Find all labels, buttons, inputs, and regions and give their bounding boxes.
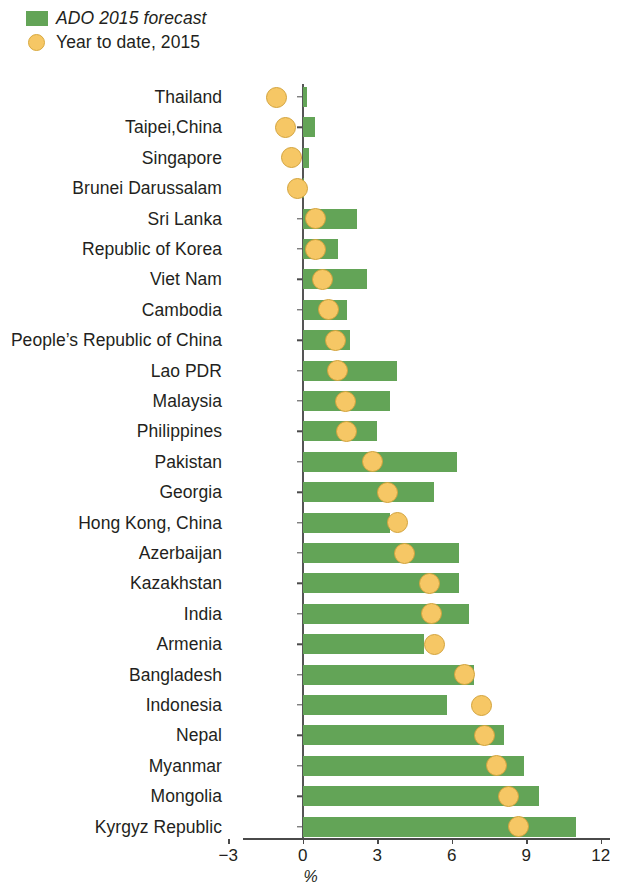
category-label: Sri Lanka [148, 208, 222, 229]
x-axis-tick [377, 839, 378, 844]
chart-row: Bangladesh [0, 660, 621, 690]
y-axis-tick [297, 400, 302, 401]
x-axis-tick-label: 12 [591, 846, 610, 866]
category-label: Armenia [156, 634, 222, 655]
category-label: Malaysia [153, 391, 222, 412]
forecast-bar [303, 148, 309, 168]
y-axis-tick [297, 491, 302, 492]
year-to-date-marker [454, 664, 475, 685]
chart-row: Sri Lanka [0, 204, 621, 234]
forecast-bar [303, 87, 307, 107]
category-label: Republic of Korea [82, 239, 222, 260]
category-label: Myanmar [149, 755, 222, 776]
x-axis-tick-label: 6 [447, 846, 456, 866]
chart-row: Pakistan [0, 447, 621, 477]
forecast-bar [303, 695, 447, 715]
y-axis-tick [297, 613, 302, 614]
category-label: Singapore [142, 147, 222, 168]
year-to-date-marker [471, 695, 492, 716]
x-axis-tick-label: 0 [298, 846, 307, 866]
category-label: Mongolia [151, 786, 222, 807]
forecast-bar [303, 117, 315, 137]
chart-row: Taipei,China [0, 112, 621, 142]
y-axis-tick [297, 127, 302, 128]
chart-row: Myanmar [0, 751, 621, 781]
category-label: India [184, 603, 222, 624]
x-axis-title: % [0, 868, 621, 886]
chart-row: Philippines [0, 416, 621, 446]
category-label: Pakistan [154, 451, 222, 472]
category-label: Nepal [176, 725, 222, 746]
category-label: Kyrgyz Republic [95, 816, 222, 837]
year-to-date-marker [312, 269, 333, 290]
y-axis-tick [297, 431, 302, 432]
x-axis-tick [526, 839, 527, 844]
chart-row: Thailand [0, 82, 621, 112]
y-axis-tick [297, 674, 302, 675]
category-label: Lao PDR [151, 360, 222, 381]
year-to-date-marker [387, 512, 408, 533]
category-label: Cambodia [142, 299, 222, 320]
category-label: Bangladesh [129, 664, 222, 685]
y-axis-tick [297, 643, 302, 644]
category-label: Indonesia [146, 695, 222, 716]
y-axis-tick [297, 461, 302, 462]
chart-row: Republic of Korea [0, 234, 621, 264]
category-label: Kazakhstan [130, 573, 222, 594]
forecast-bar [303, 543, 459, 563]
y-axis-tick [297, 765, 302, 766]
category-label: People’s Republic of China [11, 330, 222, 351]
y-axis-tick [297, 522, 302, 523]
chart-row: Viet Nam [0, 264, 621, 294]
chart-row: Cambodia [0, 295, 621, 325]
chart-row: Armenia [0, 629, 621, 659]
forecast-bar [303, 482, 435, 502]
forecast-bar [303, 361, 397, 381]
y-axis-tick [297, 309, 302, 310]
x-axis-tick [452, 839, 453, 844]
y-axis-tick [297, 704, 302, 705]
x-axis-tick [303, 839, 304, 844]
chart-row: Malaysia [0, 386, 621, 416]
year-to-date-marker [394, 543, 415, 564]
year-to-date-marker [498, 786, 519, 807]
chart-row: Nepal [0, 720, 621, 750]
year-to-date-marker [275, 117, 296, 138]
year-to-date-marker [335, 391, 356, 412]
chart-row: Indonesia [0, 690, 621, 720]
y-axis-tick [297, 339, 302, 340]
year-to-date-marker [327, 360, 348, 381]
year-to-date-marker [325, 330, 346, 351]
y-axis-tick [297, 826, 302, 827]
year-to-date-marker [362, 451, 383, 472]
category-label: Thailand [154, 87, 222, 108]
category-label: Philippines [137, 421, 222, 442]
chart-row: Lao PDR [0, 356, 621, 386]
year-to-date-marker [305, 208, 326, 229]
category-label: Brunei Darussalam [72, 178, 222, 199]
year-to-date-marker [377, 482, 398, 503]
chart-row: Hong Kong, China [0, 508, 621, 538]
chart-row: People’s Republic of China [0, 325, 621, 355]
chart-row: Georgia [0, 477, 621, 507]
x-axis-tick [601, 839, 602, 844]
forecast-bar [303, 665, 474, 685]
y-axis-tick [297, 552, 302, 553]
y-axis-tick [297, 248, 302, 249]
category-label: Taipei,China [125, 117, 222, 138]
chart-row: Kazakhstan [0, 568, 621, 598]
year-to-date-marker [424, 634, 445, 655]
y-axis-tick [297, 218, 302, 219]
category-label: Azerbaijan [139, 543, 222, 564]
year-to-date-marker [419, 573, 440, 594]
forecast-bar [303, 634, 425, 654]
year-to-date-marker [287, 178, 308, 199]
x-axis-tick [228, 839, 229, 844]
year-to-date-marker [281, 147, 302, 168]
chart-row: Azerbaijan [0, 538, 621, 568]
year-to-date-marker [305, 239, 326, 260]
x-axis-tick-label: 9 [522, 846, 531, 866]
year-to-date-marker [336, 421, 357, 442]
y-axis-tick [297, 279, 302, 280]
y-axis-tick [297, 370, 302, 371]
